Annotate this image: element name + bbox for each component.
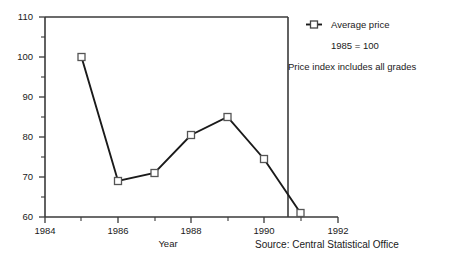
legend-note-scope: Price index includes all grades: [288, 62, 416, 72]
plot-frame: [45, 17, 338, 217]
chart-figure: 110 100 90 80 70 60 1984 1986 1988 1990 …: [0, 0, 450, 266]
legend-entry-average-price: Average price: [331, 20, 389, 30]
y-tick-label-100: 100: [7, 52, 33, 62]
x-tick-label-1992: 1992: [318, 226, 358, 236]
legend-marker-icon: [306, 21, 322, 28]
source-caption: Source: Central Statistical Office: [255, 240, 399, 250]
y-tick-label-110: 110: [7, 12, 33, 22]
x-tick-label-1984: 1984: [25, 226, 65, 236]
line-chart-canvas: [0, 0, 450, 266]
y-tick-label-80: 80: [7, 132, 33, 142]
x-axis-title: Year: [138, 239, 198, 249]
x-tick-label-1986: 1986: [98, 226, 138, 236]
x-tick-label-1988: 1988: [171, 226, 211, 236]
series-markers-average-price: [78, 54, 304, 217]
y-tick-label-60: 60: [7, 212, 33, 222]
x-tick-label-1990: 1990: [244, 226, 284, 236]
y-tick-label-70: 70: [7, 172, 33, 182]
x-axis-major-ticks: [45, 217, 338, 223]
y-tick-label-90: 90: [7, 92, 33, 102]
legend-note-base-year: 1985 = 100: [331, 41, 379, 51]
